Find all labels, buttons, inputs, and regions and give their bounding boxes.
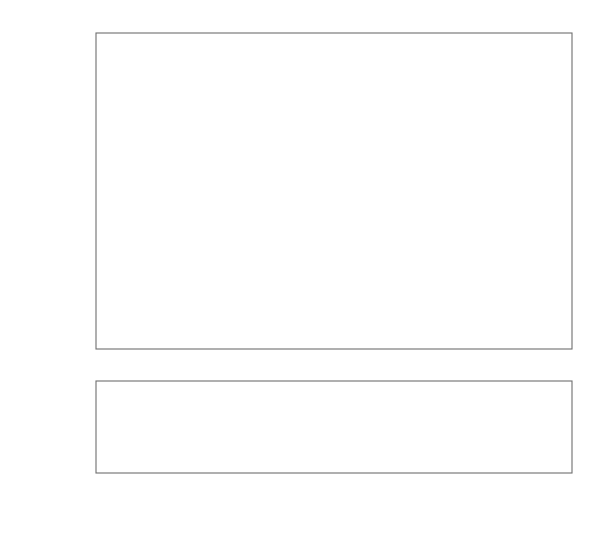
top-panel-frame bbox=[96, 33, 572, 349]
chart-svg bbox=[0, 0, 603, 554]
figure-container bbox=[0, 0, 603, 554]
bottom-panel-frame bbox=[96, 381, 572, 473]
top-panel bbox=[36, 33, 572, 349]
bottom-panel bbox=[40, 381, 572, 473]
